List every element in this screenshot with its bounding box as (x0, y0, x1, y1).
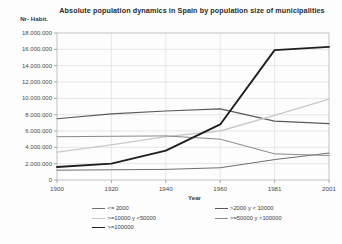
legend-item[interactable]: <= 2000 (92, 205, 215, 212)
x-axis-title: Year (52, 194, 337, 201)
legend-item[interactable]: >=100000 (92, 224, 215, 231)
legend-item[interactable]: >=50000 y <100000 (215, 215, 338, 222)
axis-ticks (54, 33, 329, 183)
legend-item[interactable]: >=10000 y <50000 (92, 215, 215, 222)
y-axis-tick-label: 8.000.000 (8, 112, 52, 118)
series-line-3 (57, 136, 329, 156)
legend-item[interactable]: >2000 y < 10000 (215, 205, 338, 212)
y-axis-tick-label: 2.000.000 (8, 161, 52, 167)
legend-swatch-icon (92, 227, 105, 228)
series-line-4 (57, 47, 329, 167)
x-axis-tick-label: 1920 (105, 185, 119, 192)
legend-label: >2000 y < 10000 (230, 205, 274, 212)
series-line-0 (57, 153, 329, 170)
x-axis-tick-label: 1900 (50, 185, 64, 192)
legend-swatch-icon (215, 208, 228, 209)
legend-swatch-icon (92, 208, 105, 209)
x-axis-tick-label: 1981 (268, 185, 282, 192)
legend-swatch-icon (215, 218, 228, 219)
y-axis-tick-label: 6.000.000 (8, 128, 52, 134)
legend-label: >=50000 y <100000 (230, 215, 282, 222)
legend-swatch-icon (92, 218, 105, 219)
y-axis-tick-label: 12.000.000 (8, 79, 52, 85)
legend-label: >=10000 y <50000 (108, 215, 157, 222)
y-axis-tick-label: 10.000.000 (8, 95, 52, 101)
y-axis-tick-label: 4.000.000 (8, 144, 52, 150)
y-axis-tick-label: 16.000.000 (8, 46, 52, 52)
x-axis-tick-label: 1960 (213, 185, 227, 192)
x-axis-tick-label: 2001 (322, 185, 336, 192)
y-axis-tick-label: 14.000.000 (8, 63, 52, 69)
x-axis-tick-label: 1940 (159, 185, 173, 192)
legend-label: <= 2000 (108, 205, 129, 212)
y-axis-tick-label: 18.000.000 (8, 30, 52, 36)
y-axis-tick-label: 0 (8, 177, 52, 183)
legend-label: >=100000 (108, 224, 134, 231)
chart-container: Absolute population dynamics in Spain by… (0, 0, 342, 244)
series-line-2 (57, 99, 329, 152)
chart-legend: <= 2000>2000 y < 10000>=10000 y <50000>=… (52, 205, 337, 234)
